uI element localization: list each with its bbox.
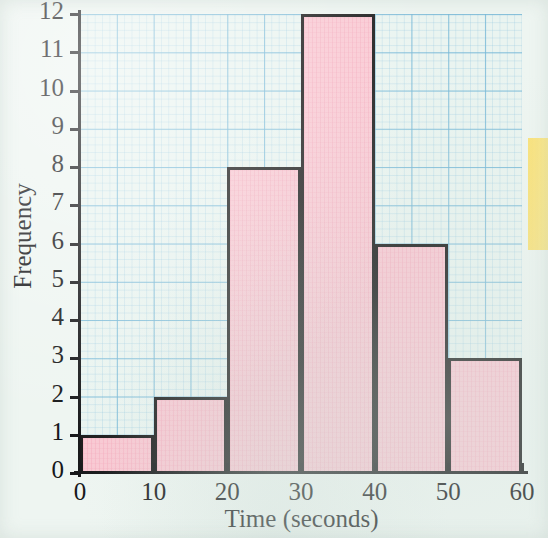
x-axis-tick — [521, 463, 524, 472]
y-axis-tick-label: 10 — [22, 74, 64, 102]
x-axis-tick-label: 20 — [197, 478, 257, 506]
y-axis-tick — [70, 166, 79, 169]
y-axis-tick — [70, 204, 79, 207]
y-axis-tick-label: 1 — [22, 418, 64, 446]
sticky-note-strip — [528, 138, 548, 250]
x-axis-tick — [374, 463, 377, 472]
y-axis-tick — [70, 13, 79, 16]
histogram-bar — [80, 435, 154, 473]
y-axis-tick — [70, 128, 79, 131]
y-axis-tick-label: 12 — [22, 0, 64, 25]
x-axis-tick — [153, 463, 156, 472]
x-axis-tick — [447, 463, 450, 472]
x-axis-tick — [300, 463, 303, 472]
histogram-bar — [301, 14, 375, 473]
histogram-figure: 0102030405060 0123456789101112 Time (sec… — [0, 0, 548, 538]
y-axis-tick — [70, 51, 79, 54]
y-axis-tick — [70, 90, 79, 93]
y-axis-tick — [70, 357, 79, 360]
x-axis-tick-label: 30 — [271, 478, 331, 506]
y-axis-title: Frequency — [9, 106, 37, 366]
x-axis-tick — [226, 463, 229, 472]
y-axis-tick — [70, 243, 79, 246]
histogram-bar — [375, 244, 449, 474]
x-axis-tick-label: 10 — [124, 478, 184, 506]
y-axis-tick-label: 0 — [22, 456, 64, 484]
histogram-bar — [154, 397, 228, 474]
y-axis-tick-label: 2 — [22, 380, 64, 408]
x-axis-tick-label: 60 — [492, 478, 548, 506]
x-axis-tick — [79, 463, 82, 472]
plot-area — [80, 14, 522, 473]
x-axis-title: Time (seconds) — [0, 505, 548, 533]
y-axis-tick — [70, 396, 79, 399]
y-axis-tick — [70, 319, 79, 322]
y-axis-tick-label: 11 — [22, 35, 64, 63]
y-axis-tick — [70, 281, 79, 284]
y-axis-tick — [70, 472, 79, 475]
y-axis-tick — [70, 434, 79, 437]
histogram-bar — [227, 167, 301, 473]
x-axis-tick-label: 50 — [418, 478, 478, 506]
x-axis-tick-label: 40 — [345, 478, 405, 506]
histogram-bar — [448, 358, 522, 473]
